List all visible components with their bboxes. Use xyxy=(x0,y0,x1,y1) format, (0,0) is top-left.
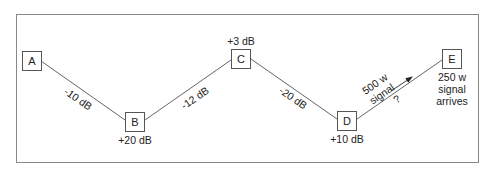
signal-direction-arrow xyxy=(391,77,412,91)
edge-b-c xyxy=(145,60,231,120)
node-b: B +20 dB xyxy=(118,113,152,147)
edge-d-e-loss: ? xyxy=(391,92,403,105)
edge-c-d xyxy=(251,59,337,119)
node-b-gain: +20 dB xyxy=(118,134,152,146)
node-c-gain: +3 dB xyxy=(227,35,255,47)
node-b-label: B xyxy=(131,116,138,128)
node-d-label: D xyxy=(343,115,351,127)
node-d: D +10 dB xyxy=(330,112,364,146)
node-e: E 250 w signal arrives xyxy=(436,50,468,108)
signal-out-line3: arrives xyxy=(436,95,468,107)
edge-a-b-loss: -10 dB xyxy=(62,85,94,113)
node-a-label: A xyxy=(28,55,36,67)
node-e-label: E xyxy=(448,53,455,65)
edge-a-b xyxy=(41,61,125,120)
node-c: C +3 dB xyxy=(227,35,255,69)
node-c-label: C xyxy=(237,53,245,65)
signal-out-line1: 250 w xyxy=(438,71,466,83)
edge-b-c-loss: -12 dB xyxy=(179,84,211,112)
signal-out-line2: signal xyxy=(438,83,465,95)
node-a: A xyxy=(23,52,42,71)
node-d-gain: +10 dB xyxy=(330,133,364,145)
signal-path-diagram: A B +20 dB C +3 dB D +10 dB E 250 w sign… xyxy=(0,0,494,174)
